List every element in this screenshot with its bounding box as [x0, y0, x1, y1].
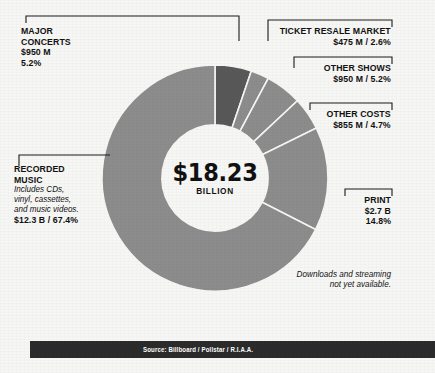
center-amount: $18.23 — [161, 158, 269, 187]
chart-center-total: $18.23 BILLION — [155, 158, 275, 196]
callout-other-shows: OTHER SHOWS $950 M / 5.2% — [318, 63, 391, 84]
callout-recorded-music-value: $12.3 B / 67.4% — [14, 215, 78, 226]
callout-major-concerts: MAJOR CONCERTS $950 M 5.2% — [21, 26, 75, 69]
source-text: Source: Billboard / Pollstar / R.I.A.A. — [143, 346, 253, 353]
availability-note-line1: Downloads and streaming — [220, 269, 391, 279]
callout-recorded-music: RECORDED MUSIC Includes CDs, vinyl, cass… — [14, 164, 84, 225]
callout-ticket-resale-value: $475 M / 2.6% — [280, 37, 391, 48]
source-bar: Source: Billboard / Pollstar / R.I.A.A. — [30, 341, 435, 358]
callout-ticket-resale: TICKET RESALE MARKET $475 M / 2.6% — [270, 26, 391, 47]
center-unit: BILLION — [160, 186, 270, 196]
callout-other-costs-value: $855 M / 4.7% — [327, 120, 391, 131]
callout-other-shows-value: $950 M / 5.2% — [324, 74, 391, 85]
infographic-canvas: MAJOR CONCERTS $950 M 5.2% TICKET RESALE… — [0, 0, 435, 373]
callout-major-concerts-percent: 5.2% — [21, 58, 71, 69]
callout-print: PRINT $2.7 B 14.8% — [362, 195, 391, 227]
availability-note: Downloads and streaming not yet availabl… — [220, 269, 391, 290]
availability-note-line2: not yet available. — [220, 279, 391, 289]
callout-other-costs: OTHER COSTS $855 M / 4.7% — [321, 109, 391, 130]
callout-print-percent: 14.8% — [364, 216, 391, 227]
